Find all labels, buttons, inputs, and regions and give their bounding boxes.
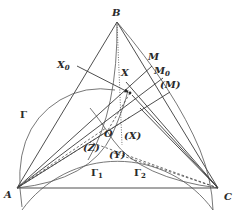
label-gamma2: Γ2 [134, 167, 146, 180]
label-m-paren: (M) [160, 79, 181, 90]
label-m: M [147, 51, 160, 62]
label-x-paren: (X) [124, 130, 141, 141]
point-p [129, 92, 132, 95]
label-z-paren: (Z) [83, 142, 100, 153]
triangle-abc [17, 22, 218, 188]
label-x0: X0 [56, 59, 70, 72]
label-o: O [104, 128, 113, 139]
side-ab [17, 22, 117, 188]
circle-gamma-arc [22, 161, 213, 210]
label-gamma: Γ [20, 109, 27, 120]
dotted-b-o [117, 22, 122, 145]
side-bc [117, 22, 218, 188]
geometry-diagram: B X0 M X M0 (M) Γ O (X) (Z) (Y) Γ1 Γ2 A … [0, 0, 240, 221]
label-y-paren: (Y) [109, 149, 126, 160]
label-a: A [3, 189, 12, 200]
line-a-m [17, 66, 152, 188]
label-gamma1: Γ1 [91, 167, 103, 180]
label-c: C [224, 191, 232, 202]
circle-gamma-left-arc [20, 89, 115, 207]
label-x: X [120, 67, 130, 78]
label-m0: M0 [153, 65, 170, 78]
label-b: B [111, 7, 120, 18]
dashed-a-o [17, 128, 106, 188]
line-c-3 [140, 108, 218, 188]
